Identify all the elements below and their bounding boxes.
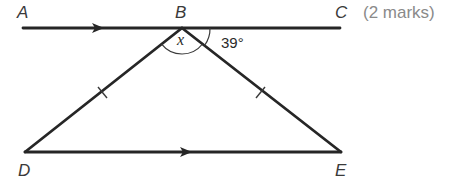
angle-39-label: 39°: [221, 34, 244, 51]
point-label-d: D: [18, 161, 30, 180]
line-be: [182, 28, 341, 152]
point-label-c: C: [335, 3, 348, 22]
marks-label: (2 marks): [363, 3, 435, 22]
point-label-e: E: [335, 161, 347, 180]
point-label-b: B: [175, 3, 186, 22]
geometry-diagram: A B C D E x 39° (2 marks): [0, 0, 463, 182]
angle-x-label: x: [176, 31, 184, 48]
line-bd: [25, 28, 182, 152]
point-label-a: A: [16, 3, 28, 22]
angle-39-arc: [205, 28, 211, 46]
